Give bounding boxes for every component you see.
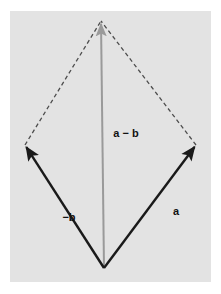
label-a: a [173, 205, 180, 217]
label-a-minus-b: a − b [113, 127, 139, 139]
plot-panel [10, 11, 211, 282]
label-minus-b: −b [62, 211, 75, 223]
vector-diagram-figure: a − b −b a [0, 0, 221, 294]
diagram-canvas: a − b −b a [0, 0, 221, 294]
